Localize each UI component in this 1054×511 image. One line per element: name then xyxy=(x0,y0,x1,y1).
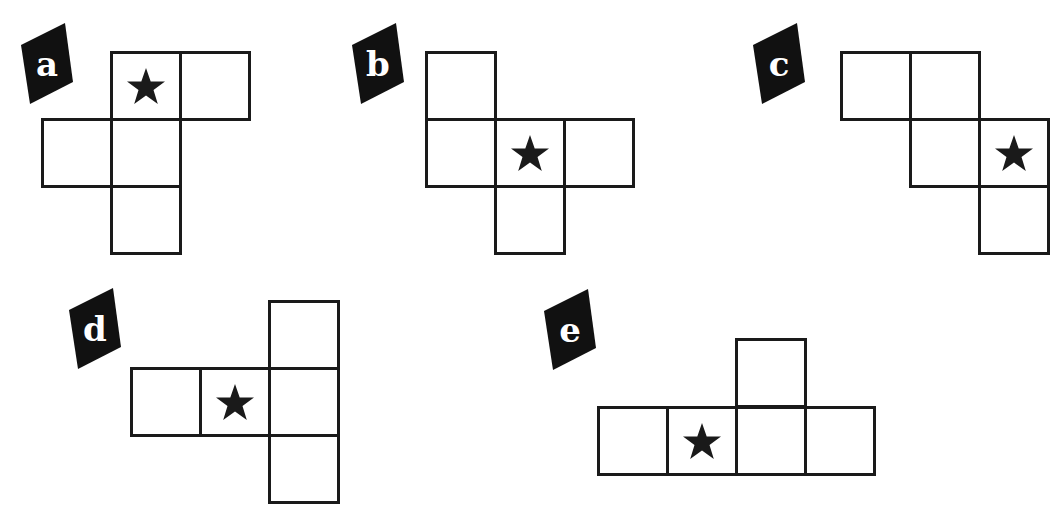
net-label-text: d xyxy=(67,287,123,369)
net-label-text: c xyxy=(751,22,807,104)
net-label-badge: c xyxy=(751,22,807,104)
net-face xyxy=(268,300,340,370)
net-face xyxy=(840,51,912,121)
net-label-badge: b xyxy=(350,22,406,104)
net-face xyxy=(494,185,566,255)
net-face xyxy=(735,338,807,408)
net-face xyxy=(494,118,566,188)
net-face xyxy=(909,118,981,188)
net-face xyxy=(735,406,807,476)
net-face xyxy=(666,406,738,476)
net-label-badge: e xyxy=(542,288,598,370)
star-icon xyxy=(994,134,1034,172)
net-label-text: a xyxy=(19,22,75,104)
net-label-text: b xyxy=(350,22,406,104)
net-label-badge: d xyxy=(67,287,123,369)
net-face xyxy=(179,51,251,121)
net-face xyxy=(199,367,271,437)
star-icon xyxy=(126,67,166,105)
net-face xyxy=(978,185,1050,255)
net-face xyxy=(268,367,340,437)
net-face xyxy=(268,434,340,504)
net-face xyxy=(909,51,981,121)
net-face xyxy=(425,51,497,121)
net-face xyxy=(110,185,182,255)
net-face xyxy=(130,367,202,437)
net-face xyxy=(110,51,182,121)
star-icon xyxy=(682,422,722,460)
star-icon xyxy=(215,383,255,421)
net-face xyxy=(597,406,669,476)
net-face xyxy=(978,118,1050,188)
net-face xyxy=(563,118,635,188)
net-label-text: e xyxy=(542,288,598,370)
star-icon xyxy=(510,134,550,172)
net-label-badge: a xyxy=(19,22,75,104)
net-face xyxy=(110,118,182,188)
net-face xyxy=(41,118,113,188)
net-face xyxy=(804,406,876,476)
net-face xyxy=(425,118,497,188)
